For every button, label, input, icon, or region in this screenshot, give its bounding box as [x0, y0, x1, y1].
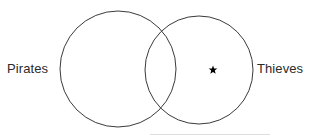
venn-diagram: Pirates Thieves [0, 0, 317, 138]
circle-pirates [60, 11, 176, 127]
star-marker-icon [209, 66, 218, 74]
set-label-thieves: Thieves [257, 62, 303, 76]
scan-artifact-line [150, 134, 270, 135]
set-label-pirates: Pirates [7, 62, 48, 76]
